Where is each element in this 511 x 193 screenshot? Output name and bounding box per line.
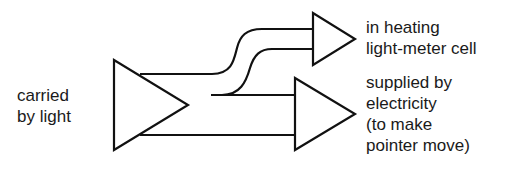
electricity-output-label: supplied by electricity (to make pointer… <box>366 72 470 156</box>
heating-label-line: in heating <box>366 17 477 38</box>
heating-output-label: in heating light-meter cell <box>366 17 477 59</box>
heating-arrow-triangle <box>313 13 355 65</box>
electricity-label-line: pointer move) <box>366 135 470 156</box>
heating-flow-outer-line <box>140 29 313 74</box>
electricity-label-line: supplied by <box>366 72 470 93</box>
input-label: carried by light <box>17 85 71 127</box>
heating-label-line: light-meter cell <box>366 38 477 59</box>
input-label-line: carried <box>17 85 71 106</box>
electricity-arrow-triangle <box>295 78 355 150</box>
electricity-label-line: (to make <box>366 114 470 135</box>
input-label-line: by light <box>17 106 71 127</box>
electricity-label-line: electricity <box>366 93 470 114</box>
energy-flow-diagram: carried by light in heating light-meter … <box>0 0 511 193</box>
